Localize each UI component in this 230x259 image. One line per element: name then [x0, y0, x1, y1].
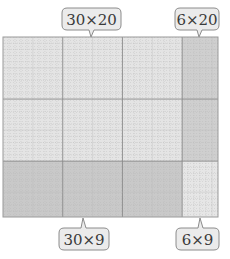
callout-6x20: 6×20 [175, 8, 219, 37]
callout-6x9: 6×9 [176, 218, 219, 250]
callout-30x9: 30×9 [59, 218, 109, 250]
callout-label-6x20: 6×20 [176, 11, 217, 29]
callout-label-30x9: 30×9 [63, 231, 104, 249]
callout-label-6x9: 6×9 [182, 231, 214, 249]
callout-30x20: 30×20 [62, 8, 121, 37]
area-model-diagram: 30×20 6×20 30×9 6×9 [0, 0, 230, 259]
callout-label-30x20: 30×20 [66, 11, 117, 29]
